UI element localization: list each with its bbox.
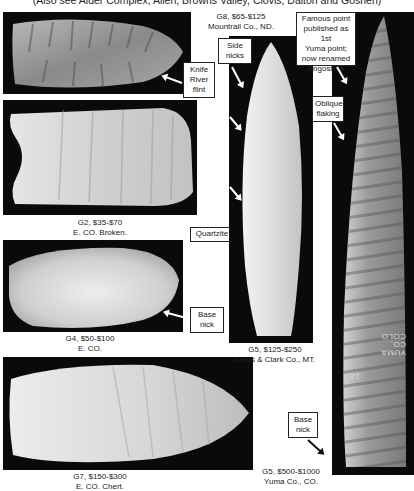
grade-g7: G7, $150-$300 (50, 472, 150, 482)
caption-g4: G4, $50-$100 E. CO. (40, 334, 140, 354)
label-knife-river-flint: Knife River flint (183, 62, 215, 98)
location-g4: E. CO. (40, 344, 140, 354)
see-also-header: (Also see Alder Complex, Allen, Browns V… (0, 0, 414, 6)
point-g4-image (3, 240, 183, 332)
grade-g8: G8, $65-$125 (196, 12, 286, 22)
grade-g4: G4, $50-$100 (40, 334, 140, 344)
location-g8: Mountrail Co., ND. (196, 22, 286, 32)
label-quartzite: Quartzite (190, 227, 234, 242)
label-side-nicks: Side nicks (218, 38, 252, 64)
point-g2-image (3, 100, 197, 215)
label-base-nick-yuma: Base nick (288, 412, 318, 438)
location-g7: E. CO. Chert. (50, 482, 150, 491)
caption-g5-lewis-clark: G5, $125-$250 Lewis & Clark Co., MT. (230, 345, 320, 365)
grade-g5b: G5, $500-$1000 (246, 467, 336, 477)
caption-g8: G8, $65-$125 Mountrail Co., ND. (196, 12, 286, 32)
label-oblique-flaking: Oblique flaking (312, 96, 344, 122)
location-g5b: Yuma Co., CO. (246, 477, 336, 487)
ink-inscription-number: 12 (350, 372, 360, 380)
label-famous-point: Famous point published as 1st Yuma point… (296, 12, 356, 66)
point-g7-image (3, 357, 253, 470)
grade-g2: G2, $35-$70 (50, 218, 150, 228)
caption-g7: G7, $150-$300 E. CO. Chert. (50, 472, 150, 491)
photo-g7 (3, 357, 253, 470)
grade-g5a: G5, $125-$250 (230, 345, 320, 355)
arrow-quartzite (203, 244, 213, 259)
caption-g2: G2, $35-$70 E. CO. Broken. (50, 218, 150, 238)
label-base-nick: Base nick (190, 307, 224, 333)
caption-g5-yuma: G5, $500-$1000 Yuma Co., CO. (246, 467, 336, 487)
ink-inscription: YUMA CO, COLO (376, 332, 406, 356)
photo-g2 (3, 100, 197, 215)
point-g8-image (3, 12, 191, 94)
location-g5a: Lewis & Clark Co., MT. (230, 355, 320, 365)
location-g2: E. CO. Broken. (50, 228, 150, 238)
photo-g8 (3, 12, 191, 94)
photo-g4 (3, 240, 183, 332)
